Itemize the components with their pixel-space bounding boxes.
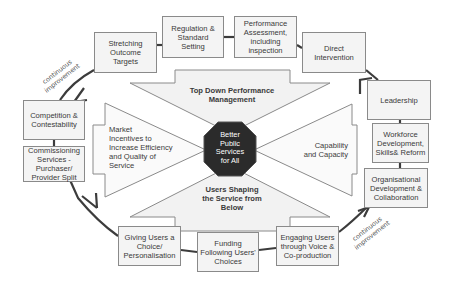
- left-arrow-label: Market Incentives to Increase Efficiency…: [109, 125, 199, 170]
- right-arrow-label: Capability and Capacity: [290, 141, 348, 159]
- box-giving-users-choice: Giving Users a Choice/ Personalisation: [118, 226, 181, 266]
- bottom-arrow-label: Users Shaping the Service from Below: [180, 185, 284, 212]
- label-line: Service: [109, 161, 199, 170]
- box-direct-intervention: Direct Intervention: [302, 32, 366, 73]
- label-line: Increase Efficiency: [109, 143, 199, 152]
- label-line: the Service from: [180, 194, 284, 203]
- label-line: Capability: [290, 141, 348, 150]
- diagram-canvas: Better Public Services for All Top Down …: [0, 0, 456, 287]
- box-engaging-users: Engaging Users through Voice & Co-produc…: [276, 226, 339, 266]
- box-leadership: Leadership: [367, 80, 431, 120]
- box-commissioning-services: Commissioning Services - Purchaser/ Prov…: [23, 146, 85, 182]
- label-line: and Capacity: [290, 150, 348, 159]
- box-workforce-development: Workforce Development, Skills& Reform: [372, 123, 429, 163]
- label-line: Incentives to: [109, 134, 199, 143]
- label-line: Management: [170, 95, 294, 104]
- box-funding-following-choices: Funding Following Users' Choices: [197, 232, 259, 272]
- label-line: Top Down Performance: [170, 86, 294, 95]
- center-title: Better Public Services for All: [204, 131, 256, 165]
- box-stretching-outcome-targets: Stretching Outcome Targets: [94, 32, 157, 73]
- label-line: Market: [109, 125, 199, 134]
- top-arrow-label: Top Down Performance Management: [170, 86, 294, 104]
- box-competition-contestability: Competition & Contestability: [23, 100, 85, 140]
- label-line: and Quality of: [109, 152, 199, 161]
- box-organisational-development: Organisational Development & Collaborati…: [364, 168, 428, 208]
- center-line: for All: [204, 157, 256, 166]
- box-regulation-standard-setting: Regulation & Standard Setting: [162, 16, 224, 58]
- box-performance-assessment: Performance Assessment, including inspec…: [234, 16, 297, 58]
- label-line: Users Shaping: [180, 185, 284, 194]
- label-line: Below: [180, 203, 284, 212]
